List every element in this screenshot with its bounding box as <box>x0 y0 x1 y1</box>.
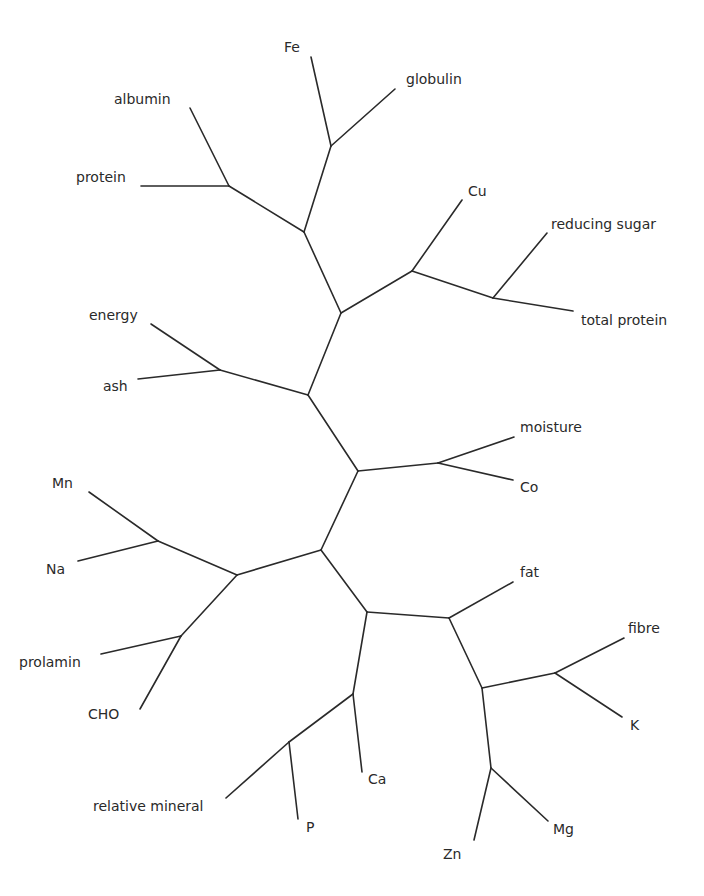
tree-edge <box>493 298 573 311</box>
leaf-label-mg: Mg <box>553 821 574 837</box>
leaf-label-ash: ash <box>103 378 128 394</box>
leaf-label-globulin: globulin <box>406 71 462 87</box>
tree-edge <box>353 694 362 772</box>
tree-edge <box>412 200 462 271</box>
tree-edge <box>482 688 491 768</box>
tree-edge <box>289 694 353 742</box>
tree-edge <box>493 233 547 298</box>
leaf-label-co: Co <box>520 479 538 495</box>
leaf-label-k: K <box>630 717 640 733</box>
tree-edge <box>482 673 555 688</box>
tree-edge <box>555 673 622 717</box>
tree-edge <box>140 636 181 709</box>
leaf-label-cu: Cu <box>468 183 487 199</box>
tree-edge <box>311 57 331 146</box>
tree-edge <box>412 271 493 298</box>
tree-edge <box>308 313 341 395</box>
tree-edge <box>138 370 220 379</box>
tree-edge <box>89 492 158 541</box>
leaf-label-zn: Zn <box>443 846 461 862</box>
tree-edge <box>289 742 298 819</box>
leaf-label-moisture: moisture <box>520 419 582 435</box>
tree-edge <box>449 618 482 688</box>
leaf-label-albumin: albumin <box>114 91 171 107</box>
leaf-label-energy: energy <box>89 307 138 323</box>
leaf-label-relative-mineral: relative mineral <box>93 798 204 814</box>
leaf-label-fe: Fe <box>284 39 300 55</box>
leaf-label-total-protein: total protein <box>581 312 667 328</box>
tree-edge <box>304 146 331 232</box>
tree-edge <box>181 575 237 636</box>
tree-edge <box>308 395 358 471</box>
leaf-label-cho: CHO <box>88 706 119 722</box>
tree-edge <box>438 437 514 463</box>
tree-edge <box>321 550 367 612</box>
tree-edge <box>331 89 395 146</box>
tree-edge <box>220 370 308 395</box>
tree-edge <box>491 768 548 821</box>
tree-edge <box>158 541 237 575</box>
leaf-label-fat: fat <box>520 564 540 580</box>
leaf-label-p: P <box>306 819 314 835</box>
tree-edge <box>438 463 513 480</box>
tree-edge <box>341 271 412 313</box>
tree-edge <box>101 636 181 654</box>
leaf-label-prolamin: prolamin <box>19 654 81 670</box>
tree-diagram-svg: FeglobulinalbuminproteinCureducing sugar… <box>0 0 704 896</box>
leaf-label-protein: protein <box>76 169 126 185</box>
leaf-label-fibre: fibre <box>628 620 660 636</box>
leaf-label-mn: Mn <box>52 475 73 491</box>
tree-edge <box>474 768 491 840</box>
tree-edge <box>78 541 158 561</box>
tree-edge <box>358 463 438 471</box>
leaf-label-na: Na <box>46 561 65 577</box>
tree-edge <box>237 550 321 575</box>
leaf-label-ca: Ca <box>368 771 386 787</box>
tree-labels: FeglobulinalbuminproteinCureducing sugar… <box>19 39 667 862</box>
tree-edge <box>304 232 341 313</box>
tree-edge <box>229 186 304 232</box>
tree-edge <box>555 638 624 673</box>
tree-edge <box>449 582 513 618</box>
tree-edge <box>367 612 449 618</box>
tree-edge <box>321 471 358 550</box>
leaf-label-reducing-sugar: reducing sugar <box>551 216 656 232</box>
tree-edge <box>151 324 220 370</box>
tree-edge <box>190 108 229 186</box>
tree-edges <box>78 57 624 840</box>
tree-edge <box>226 742 289 798</box>
tree-diagram: FeglobulinalbuminproteinCureducing sugar… <box>0 0 704 896</box>
tree-edge <box>353 612 367 694</box>
